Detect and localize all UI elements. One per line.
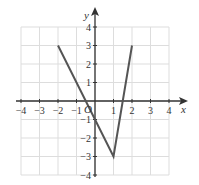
origin-label: O — [84, 103, 92, 115]
x-tick-label: −4 — [16, 105, 27, 116]
axes — [16, 7, 188, 177]
x-tick-label: 2 — [130, 105, 135, 116]
y-tick-label: 4 — [86, 22, 91, 33]
x-tick-label: 1 — [111, 105, 116, 116]
y-tick-label: 3 — [86, 40, 91, 51]
y-tick-label: 2 — [86, 59, 91, 70]
y-tick-label: −1 — [80, 114, 91, 125]
y-tick-label: −2 — [80, 133, 91, 144]
x-tick-label: 4 — [167, 105, 172, 116]
x-axis-label: x — [180, 103, 186, 115]
x-tick-label: −3 — [34, 105, 45, 116]
y-axis-label: y — [83, 9, 89, 21]
y-tick-label: −3 — [80, 151, 91, 162]
x-tick-label: 3 — [148, 105, 153, 116]
y-tick-label: 1 — [86, 77, 91, 88]
graph: −4−3−2−112344321−1−2−3−4 x y O — [0, 0, 199, 185]
x-tick-label: −2 — [53, 105, 64, 116]
y-tick-label: −4 — [80, 170, 91, 181]
